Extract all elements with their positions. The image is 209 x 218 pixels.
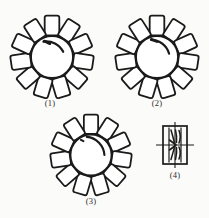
figure-4-drawing (155, 121, 195, 169)
figure-3-drawing (49, 113, 133, 197)
tooth (84, 115, 98, 134)
tooth (150, 16, 165, 36)
tooth (50, 151, 71, 168)
lower-curve-motif (171, 147, 180, 160)
figure-1-caption: (1) (30, 98, 70, 108)
arc-tick-mark (81, 140, 84, 141)
tooth (45, 16, 60, 36)
figure-2-drawing (114, 14, 200, 100)
figure-2 (114, 14, 200, 100)
upper-curve-motif (171, 130, 180, 143)
tooth (10, 53, 32, 70)
figure-3 (49, 113, 133, 197)
figure-4-caption: (4) (155, 170, 195, 180)
figure-2-caption: (2) (137, 98, 177, 108)
figure-1-drawing (9, 14, 95, 100)
figure-plate: (1) (2) (0, 0, 209, 218)
tooth (115, 53, 137, 70)
figure-1 (9, 14, 95, 100)
figure-4 (155, 121, 195, 169)
figure-3-caption: (3) (71, 196, 111, 206)
